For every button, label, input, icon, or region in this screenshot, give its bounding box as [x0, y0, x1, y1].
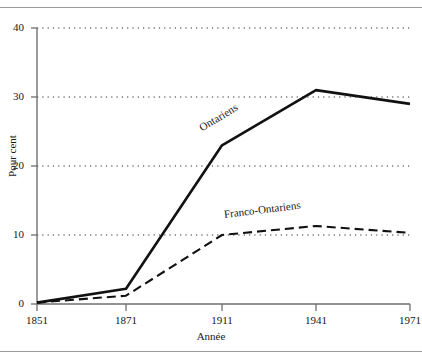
x-tick-label-1911: 1911 [200, 314, 244, 326]
x-axis-title: Année [0, 330, 422, 342]
series-line-franco-ontariens [37, 226, 410, 303]
y-tick-label-40: 40 [2, 21, 24, 33]
x-tick-label-1971: 1971 [388, 314, 422, 326]
y-tick-label-30: 30 [2, 90, 24, 102]
y-tick-label-0: 0 [2, 297, 24, 309]
series-line-ontariens [37, 90, 410, 303]
x-axis-ticks [37, 304, 410, 311]
x-tick-label-1851: 1851 [15, 314, 59, 326]
y-tick-label-10: 10 [2, 228, 24, 240]
x-tick-label-1941: 1941 [294, 314, 338, 326]
line-chart-plot [0, 0, 422, 363]
figure: 40 30 20 10 0 1851 1871 1911 1941 1971 P… [0, 0, 422, 363]
x-tick-label-1871: 1871 [104, 314, 148, 326]
y-axis-ticks [31, 28, 37, 304]
gridlines [37, 28, 410, 235]
y-axis-title: Pour cent [6, 126, 18, 186]
